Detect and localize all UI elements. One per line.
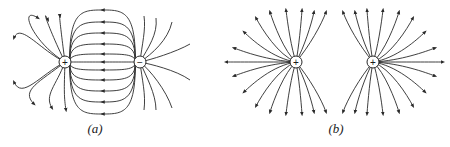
- field-line: [103, 62, 136, 80]
- field-line: [14, 33, 65, 62]
- panel-a-caption: (a): [87, 121, 102, 137]
- field-line: [286, 10, 296, 62]
- field-line: [373, 62, 383, 114]
- field-line: [140, 62, 190, 80]
- field-line: [140, 18, 156, 62]
- field-line: [343, 62, 373, 112]
- field-line: [296, 62, 302, 114]
- field-line: [103, 62, 136, 91]
- charge-symbol: −: [137, 57, 143, 68]
- field-line: [286, 62, 296, 114]
- field-line: [103, 33, 136, 62]
- field-line: [29, 15, 65, 62]
- field-line: [140, 44, 190, 62]
- field-line: [355, 12, 373, 62]
- panel-b-like-charges: [226, 10, 443, 114]
- field-line: [296, 62, 326, 112]
- panel-b-caption: (b): [328, 121, 343, 137]
- field-line: [70, 54, 103, 62]
- field-line: [70, 62, 103, 91]
- field-line: [59, 14, 65, 62]
- field-line: [49, 62, 65, 108]
- negative-charge-icon: −: [134, 56, 146, 68]
- field-line: [373, 10, 383, 62]
- field-line: [296, 62, 314, 112]
- charge-symbol: +: [293, 57, 299, 68]
- positive-charge-icon: +: [59, 56, 71, 68]
- charge-symbol: +: [370, 57, 376, 68]
- field-line: [367, 62, 373, 114]
- field-line: [29, 62, 65, 104]
- field-line: [140, 62, 145, 110]
- field-line: [103, 44, 136, 62]
- charge-symbol: +: [62, 57, 68, 68]
- field-line: [70, 62, 103, 80]
- positive-charge-icon: +: [367, 56, 379, 68]
- field-line: [296, 12, 314, 62]
- field-line: [14, 62, 65, 88]
- field-line: [103, 54, 136, 62]
- field-lines-figure: +−++: [0, 0, 450, 147]
- field-line: [296, 12, 326, 62]
- field-line: [355, 62, 373, 112]
- field-line: [70, 33, 103, 62]
- positive-charge-icon: +: [290, 56, 302, 68]
- field-line: [296, 10, 302, 62]
- field-line: [103, 62, 136, 70]
- field-line: [64, 62, 66, 110]
- field-line: [343, 12, 373, 62]
- field-line: [70, 62, 103, 70]
- field-line: [367, 10, 373, 62]
- panel-a-dipole: [14, 10, 190, 114]
- field-line: [70, 44, 103, 62]
